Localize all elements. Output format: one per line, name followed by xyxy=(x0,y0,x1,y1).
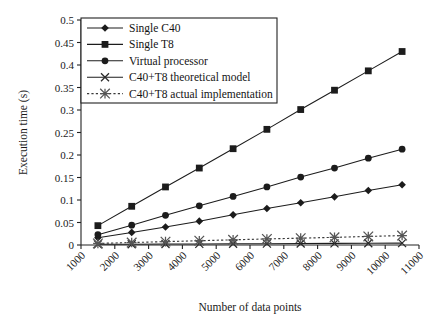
marker-square xyxy=(264,126,271,133)
y-axis-title: Execution time (s) xyxy=(17,90,30,175)
legend-label: Single T8 xyxy=(129,38,174,51)
x-tick-label: 10000 xyxy=(364,249,392,277)
y-tick-label: 0.25 xyxy=(55,127,75,139)
marker-square xyxy=(95,222,102,229)
y-tick-label: 0.15 xyxy=(55,172,75,184)
y-tick-label: 0.1 xyxy=(60,194,74,206)
marker-star xyxy=(228,235,238,245)
x-tick-label: 2000 xyxy=(97,249,121,273)
marker-circle xyxy=(399,146,406,153)
x-tick-label: 9000 xyxy=(334,249,358,273)
marker-star xyxy=(93,239,103,249)
series-path xyxy=(98,236,402,244)
marker-diamond xyxy=(331,193,339,201)
marker-diamond xyxy=(196,217,204,225)
marker-circle xyxy=(365,155,372,162)
marker-square xyxy=(102,41,109,48)
marker-circle xyxy=(196,202,203,209)
chart-figure: 00.050.10.150.20.250.30.350.40.450.51000… xyxy=(0,0,444,324)
y-tick-label: 0.2 xyxy=(60,149,74,161)
chart-canvas: 00.050.10.150.20.250.30.350.40.450.51000… xyxy=(0,0,444,324)
x-tick-label: 8000 xyxy=(300,249,324,273)
marker-diamond xyxy=(398,181,406,189)
marker-circle xyxy=(264,184,271,191)
legend-label: C40+T8 actual implementation xyxy=(129,88,273,101)
y-tick-label: 0.45 xyxy=(55,37,75,49)
marker-diamond xyxy=(162,223,170,231)
series-path xyxy=(98,243,402,244)
legend-label: Virtual processor xyxy=(129,55,208,68)
marker-square xyxy=(128,203,135,210)
y-tick-label: 0 xyxy=(69,239,75,251)
marker-circle xyxy=(162,212,169,219)
marker-square xyxy=(297,106,304,113)
marker-circle xyxy=(102,57,109,64)
marker-circle xyxy=(331,165,338,172)
marker-square xyxy=(196,165,203,172)
series-1 xyxy=(94,181,406,242)
marker-diamond xyxy=(297,199,305,207)
marker-circle xyxy=(95,231,102,238)
x-tick-label: 11000 xyxy=(398,249,426,277)
marker-circle xyxy=(128,222,135,229)
marker-square xyxy=(365,67,372,74)
marker-star xyxy=(397,231,407,241)
x-tick-label: 6000 xyxy=(232,249,256,273)
y-tick-label: 0.3 xyxy=(60,104,74,116)
x-axis-title: Number of data points xyxy=(198,301,302,314)
marker-square xyxy=(399,48,406,55)
legend-label: Single C40 xyxy=(129,22,181,35)
marker-diamond xyxy=(128,229,136,237)
y-tick-label: 0.35 xyxy=(55,82,75,94)
x-tick-label: 7000 xyxy=(266,249,290,273)
marker-circle xyxy=(297,174,304,181)
chart-legend: Single C40Single T8Virtual processorC40+… xyxy=(81,18,277,103)
y-tick-label: 0.5 xyxy=(60,14,74,26)
series-path xyxy=(98,185,402,238)
marker-star xyxy=(330,233,340,243)
marker-diamond xyxy=(365,187,373,195)
x-tick-label: 3000 xyxy=(131,249,155,273)
marker-square xyxy=(230,145,237,152)
marker-square xyxy=(162,184,169,191)
marker-star xyxy=(127,238,137,248)
marker-star xyxy=(100,89,110,99)
marker-star xyxy=(161,237,171,247)
x-tick-label: 5000 xyxy=(199,249,223,273)
series-path xyxy=(98,149,402,235)
y-tick-label: 0.05 xyxy=(55,217,75,229)
marker-star xyxy=(364,232,374,242)
marker-diamond xyxy=(229,211,237,219)
x-tick-label: 1000 xyxy=(63,249,87,273)
legend-label: C40+T8 theoretical model xyxy=(129,71,250,83)
marker-diamond xyxy=(263,205,271,213)
marker-star xyxy=(262,234,272,244)
marker-circle xyxy=(230,193,237,200)
x-tick-label: 4000 xyxy=(165,249,189,273)
y-tick-label: 0.4 xyxy=(60,59,74,71)
marker-square xyxy=(331,87,338,94)
marker-star xyxy=(296,233,306,243)
marker-star xyxy=(195,236,205,246)
